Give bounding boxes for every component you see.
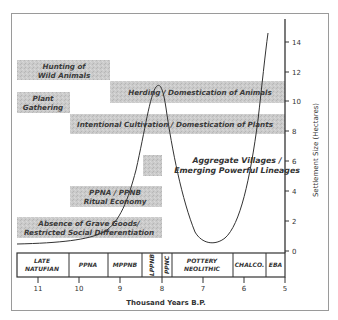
period-ppna: PPNA xyxy=(79,261,98,268)
y-tick-8: 8 xyxy=(292,128,296,136)
x-tick-5: 5 xyxy=(283,285,287,293)
annotation-aggregate-1: Aggregate Villages / xyxy=(191,156,282,165)
label-ppna-2: Ritual Economy xyxy=(84,197,147,206)
band-small-box xyxy=(143,155,162,176)
x-tick-6: 6 xyxy=(242,285,247,293)
x-tick-9: 9 xyxy=(118,285,122,293)
y-tick-14: 14 xyxy=(292,39,301,47)
label-herding: Herding / Domestication of Animals xyxy=(128,88,272,97)
label-plant-1: Plant xyxy=(32,94,54,103)
label-plant-2: Gathering xyxy=(23,103,63,112)
y-tick-4: 4 xyxy=(292,188,297,196)
period-late-natufian-2: NATUFIAN xyxy=(25,265,59,272)
period-pottery-2: NEOLITHIC xyxy=(184,265,221,272)
x-tick-7: 7 xyxy=(201,285,205,293)
label-absence-2: Restricted Social Differentiation xyxy=(24,228,154,237)
y-tick-10: 10 xyxy=(292,98,301,106)
period-lppnb: LPPNB xyxy=(148,253,155,276)
period-ppnc: PPNC xyxy=(163,255,170,274)
period-chalco: CHALCO. xyxy=(235,261,265,268)
y-tick-6: 6 xyxy=(292,158,297,166)
x-tick-11: 11 xyxy=(34,285,43,293)
label-hunting-1: Hunting of xyxy=(43,62,87,71)
period-eba: EBA xyxy=(269,261,283,268)
period-mppnb: MPPNB xyxy=(113,261,138,268)
y-tick-0: 0 xyxy=(292,248,296,256)
x-axis-label: Thousand Years B.P. xyxy=(126,299,205,307)
x-tick-8: 8 xyxy=(160,285,164,293)
label-absence-1: Absence of Grave Goods/ xyxy=(37,219,141,228)
annotation-aggregate-2: Emerging Powerful Lineages xyxy=(174,166,300,175)
x-ticks xyxy=(38,277,285,283)
period-pottery-1: POTTERY xyxy=(187,257,218,264)
period-late-natufian-1: LATE xyxy=(34,257,51,264)
label-ppna-1: PPNA / PPNB xyxy=(89,188,141,197)
label-cultivation: Intentional Cultivation / Domestication … xyxy=(77,120,274,129)
chart-svg: Hunting of Wild Animals Herding / Domest… xyxy=(0,0,338,320)
label-hunting-2: Wild Animals xyxy=(38,71,91,80)
y-axis-label: Settlement Size (Hectares) xyxy=(312,103,320,197)
y-tick-12: 12 xyxy=(292,69,301,77)
y-tick-2: 2 xyxy=(292,218,296,226)
x-tick-10: 10 xyxy=(75,285,84,293)
